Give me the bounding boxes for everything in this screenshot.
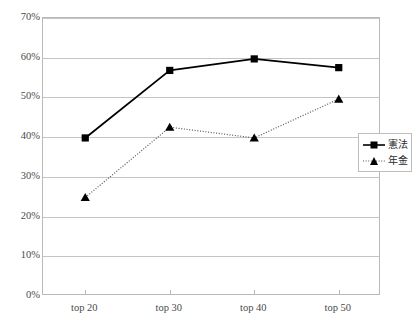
y-axis: 0%10%20%30%40%50%60%70% (0, 17, 40, 295)
data-point-triangle-icon (334, 95, 343, 103)
y-axis-tick-label: 10% (2, 250, 40, 260)
x-axis-tick-label: top 40 (218, 301, 288, 314)
x-axis-tick-label: top 20 (49, 301, 119, 314)
series-layer (43, 18, 381, 296)
data-point-triangle-icon (165, 123, 174, 131)
plot-area (42, 17, 380, 295)
y-axis-tick-label: 20% (2, 211, 40, 221)
x-axis-tick (339, 290, 340, 294)
data-point-square-icon (251, 55, 258, 62)
legend-item-1[interactable]: 年金 (362, 153, 410, 169)
legend-item-0[interactable]: 憲法 (362, 137, 410, 153)
x-axis-tick (254, 290, 255, 294)
y-axis-tick-label: 60% (2, 52, 40, 62)
x-axis-tick (85, 290, 86, 294)
data-point-triangle-icon (81, 193, 90, 201)
x-axis-tick-label: top 30 (134, 301, 204, 314)
y-axis-tick-label: 40% (2, 131, 40, 141)
legend-swatch-square-icon (362, 139, 386, 151)
legend-label-1: 年金 (386, 155, 408, 167)
legend-label-0: 憲法 (386, 139, 408, 151)
y-axis-tick-label: 70% (2, 12, 40, 22)
x-axis-tick (170, 290, 171, 294)
series-0 (82, 55, 343, 141)
legend-swatch-triangle-icon (362, 155, 386, 167)
data-point-square-icon (335, 64, 342, 71)
legend: 憲法 年金 (358, 133, 412, 172)
x-axis-tick-label: top 50 (303, 301, 373, 314)
x-axis: top 20top 30top 40top 50 (42, 301, 380, 321)
data-point-square-icon (166, 67, 173, 74)
y-axis-tick-label: 30% (2, 171, 40, 181)
y-axis-tick-label: 50% (2, 91, 40, 101)
line-chart: 0%10%20%30%40%50%60%70% top 20top 30top … (0, 0, 419, 328)
data-point-square-icon (82, 134, 89, 141)
y-axis-tick-label: 0% (2, 290, 40, 300)
series-line (85, 99, 339, 197)
series-line (85, 59, 339, 138)
